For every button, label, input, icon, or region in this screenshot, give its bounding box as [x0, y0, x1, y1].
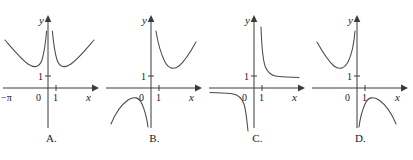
- x-tick-label-zero-a: 0: [36, 92, 41, 103]
- y-axis-arrow-d: [354, 15, 361, 22]
- option-label-b: B.: [103, 132, 206, 144]
- option-panel-b[interactable]: x y 0 1 1 B.: [103, 0, 206, 160]
- y-tick-label-one-c: 1: [244, 71, 249, 82]
- option-label-c: C.: [206, 132, 309, 144]
- y-axis-arrow-a: [45, 15, 52, 22]
- graph-d: x y 0 1 1: [309, 0, 413, 134]
- y-axis-arrow-c: [251, 15, 258, 22]
- option-panel-a[interactable]: x y −π 0 1 1 A.: [0, 0, 103, 160]
- x-tick-label-zero-b: 0: [139, 92, 144, 103]
- curve-right-branch-a: [52, 31, 94, 67]
- curve-left-branch-a: [5, 31, 47, 67]
- option-panel-d[interactable]: x y 0 1 1 D.: [309, 0, 413, 160]
- x-axis-label-d: x: [394, 91, 400, 103]
- option-panel-c[interactable]: x y 0 1 1 C.: [206, 0, 309, 160]
- x-axis-arrow-a: [92, 85, 99, 92]
- y-tick-label-one-b: 1: [141, 71, 146, 82]
- y-tick-label-one-a: 1: [38, 71, 43, 82]
- option-label-d: D.: [309, 132, 412, 144]
- y-axis-label-c: y: [244, 14, 250, 26]
- x-axis-arrow-c: [298, 85, 305, 92]
- x-tick-label-one-d: 1: [362, 92, 367, 103]
- x-axis-label-b: x: [188, 91, 194, 103]
- curve-upper-right-b: [156, 31, 196, 68]
- multiple-choice-graph-figure: x y −π 0 1 1 A. x y 0 1 1 B.: [0, 0, 413, 160]
- x-axis-arrow-d: [401, 85, 408, 92]
- graph-a: x y −π 0 1 1: [0, 0, 103, 134]
- x-tick-label-zero-d: 0: [345, 92, 350, 103]
- y-axis-arrow-b: [148, 15, 155, 22]
- y-axis-label-d: y: [347, 14, 353, 26]
- x-tick-label-one-b: 1: [156, 92, 161, 103]
- y-axis-label-b: y: [141, 14, 147, 26]
- x-tick-label-negpi-a: −π: [1, 92, 12, 103]
- option-label-a: A.: [0, 132, 103, 144]
- x-axis-label-a: x: [85, 91, 91, 103]
- x-axis-arrow-b: [195, 85, 202, 92]
- x-tick-label-one-c: 1: [259, 92, 264, 103]
- y-axis-label-a: y: [38, 14, 44, 26]
- graph-c: x y 0 1 1: [206, 0, 309, 134]
- x-tick-label-zero-c: 0: [242, 92, 247, 103]
- curve-upper-left-branch-d: [317, 31, 355, 68]
- x-tick-label-one-a: 1: [53, 92, 58, 103]
- y-tick-label-one-d: 1: [347, 71, 352, 82]
- graph-b: x y 0 1 1: [103, 0, 206, 134]
- x-axis-label-c: x: [291, 91, 297, 103]
- curve-upper-right-branch-c: [261, 27, 299, 78]
